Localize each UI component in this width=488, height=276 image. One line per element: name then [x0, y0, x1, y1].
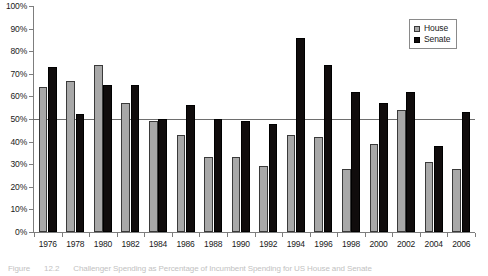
legend-label: Senate — [424, 35, 450, 44]
x-axis-tick-mark — [365, 233, 366, 237]
bar-house-2002 — [397, 110, 406, 232]
x-axis-tick-mark — [392, 233, 393, 237]
bar-group — [34, 6, 62, 232]
figure-caption: Figure12.2Challenger Spending as Percent… — [8, 264, 484, 274]
x-axis-tick-label: 1982 — [121, 239, 139, 249]
x-axis-tick-mark — [34, 233, 35, 237]
bar-senate-1994 — [296, 38, 305, 232]
bar-house-1996 — [314, 137, 323, 232]
x-axis-tick-mark — [172, 233, 173, 237]
bar-senate-1976 — [48, 67, 57, 232]
bar-senate-2002 — [406, 92, 415, 232]
x-axis-tick-mark — [310, 233, 311, 237]
bar-senate-1990 — [241, 121, 250, 232]
x-axis-tick-label: 2004 — [425, 239, 443, 249]
y-axis-tick-mark — [29, 74, 33, 75]
x-axis-tick-label: 1996 — [314, 239, 332, 249]
bar-house-1988 — [204, 157, 213, 232]
y-axis: 0%10%20%30%40%50%60%70%80%90%100% — [0, 0, 30, 252]
y-axis-tick-label: 90% — [11, 24, 27, 33]
x-axis-tick-label: 2006 — [452, 239, 470, 249]
x-axis-line — [33, 232, 475, 233]
y-axis-tick-mark — [29, 164, 33, 165]
bar-senate-1996 — [324, 65, 333, 232]
x-axis-tick-label: 1984 — [149, 239, 167, 249]
x-axis-tick-label: 2000 — [369, 239, 387, 249]
bar-house-2000 — [370, 144, 379, 232]
legend-item-senate: Senate — [414, 34, 450, 45]
x-axis-tick-label: 1980 — [94, 239, 112, 249]
y-axis-tick-mark — [29, 6, 33, 7]
y-axis-tick-label: 40% — [11, 137, 27, 146]
bar-group — [172, 6, 200, 232]
y-axis-tick-mark — [29, 96, 33, 97]
bar-house-1998 — [342, 169, 351, 232]
bar-house-1994 — [287, 135, 296, 232]
x-axis-tick-mark — [337, 233, 338, 237]
bar-group — [365, 6, 393, 232]
x-axis: 1976197819801982198419861988199019921994… — [34, 239, 475, 251]
chart-legend: HouseSenate — [409, 19, 457, 49]
figure-container: 0%10%20%30%40%50%60%70%80%90%100% 197619… — [0, 0, 488, 276]
bar-group — [199, 6, 227, 232]
bar-group — [227, 6, 255, 232]
y-axis-tick-mark — [29, 51, 33, 52]
x-axis-tick-label: 1990 — [232, 239, 250, 249]
caption-text: Challenger Spending as Percentage of Inc… — [73, 264, 372, 273]
x-axis-tick-mark — [89, 233, 90, 237]
y-axis-tick-mark — [29, 232, 33, 233]
caption-number: 12.2 — [44, 264, 59, 273]
x-axis-tick-mark — [255, 233, 256, 237]
legend-swatch-house-icon — [414, 26, 420, 32]
bar-group — [62, 6, 90, 232]
x-axis-tick-mark — [144, 233, 145, 237]
bar-group — [144, 6, 172, 232]
bar-house-1978 — [66, 81, 75, 232]
y-axis-tick-mark — [29, 142, 33, 143]
x-axis-tick-label: 1978 — [66, 239, 84, 249]
bar-group — [282, 6, 310, 232]
bar-senate-1978 — [76, 114, 85, 232]
x-axis-tick-label: 1992 — [259, 239, 277, 249]
bar-senate-1992 — [269, 124, 278, 232]
bar-group — [117, 6, 145, 232]
x-axis-tick-mark — [447, 233, 448, 237]
x-axis-tick-label: 1988 — [204, 239, 222, 249]
bar-senate-2000 — [379, 103, 388, 232]
x-axis-tick-label: 1998 — [342, 239, 360, 249]
bar-house-2006 — [452, 169, 461, 232]
x-axis-tick-label: 2002 — [397, 239, 415, 249]
x-axis-tick-mark — [199, 233, 200, 237]
bar-senate-2006 — [462, 112, 471, 232]
x-axis-tick-mark — [227, 233, 228, 237]
bar-group — [89, 6, 117, 232]
y-axis-tick-mark — [29, 187, 33, 188]
bar-house-1976 — [39, 87, 48, 232]
bar-senate-1986 — [186, 105, 195, 232]
y-axis-tick-label: 0% — [15, 228, 27, 237]
bar-house-1984 — [149, 121, 158, 232]
legend-label: House — [424, 24, 448, 33]
x-axis-tick-mark — [420, 233, 421, 237]
bar-house-1982 — [121, 103, 130, 232]
y-axis-tick-label: 60% — [11, 92, 27, 101]
bar-senate-1982 — [131, 85, 140, 232]
legend-item-house: House — [414, 23, 450, 34]
bar-house-2004 — [425, 162, 434, 232]
bar-senate-2004 — [434, 146, 443, 232]
x-axis-tick-mark — [117, 233, 118, 237]
x-axis-tick-label: 1976 — [39, 239, 57, 249]
bar-senate-1980 — [103, 85, 112, 232]
bar-senate-1984 — [158, 119, 167, 232]
x-axis-tick-mark — [62, 233, 63, 237]
bar-chart: 0%10%20%30%40%50%60%70%80%90%100% 197619… — [0, 0, 488, 252]
bar-group — [337, 6, 365, 232]
bar-senate-1998 — [351, 92, 360, 232]
y-axis-tick-mark — [29, 209, 33, 210]
y-axis-tick-mark — [29, 29, 33, 30]
y-axis-tick-label: 100% — [6, 2, 27, 11]
x-axis-tick-label: 1986 — [177, 239, 195, 249]
bar-house-1986 — [177, 135, 186, 232]
y-axis-tick-mark — [29, 119, 33, 120]
bar-house-1990 — [232, 157, 241, 232]
